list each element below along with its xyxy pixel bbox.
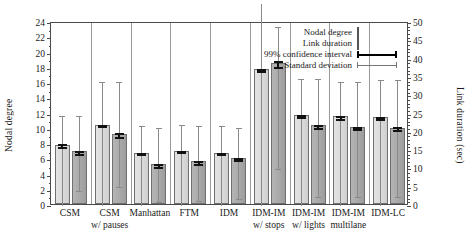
y-minor-tick-right bbox=[407, 177, 410, 178]
y-tick-label-left: 12 bbox=[36, 110, 46, 120]
y-minor-tick-right bbox=[407, 56, 410, 57]
sd-whisker-nodal-degree bbox=[380, 80, 381, 206]
y-minor-tick-right bbox=[407, 122, 410, 123]
y-tick-right bbox=[407, 23, 411, 24]
y-minor-tick-right bbox=[407, 89, 410, 90]
x-axis-label: IDM-IMw/ lights bbox=[289, 208, 329, 231]
y-minor-tick-right bbox=[407, 144, 410, 145]
y-minor-tick-right bbox=[407, 129, 410, 130]
legend-swatch-link-duration bbox=[357, 39, 397, 48]
y-minor-tick-right bbox=[407, 184, 410, 185]
y-minor-tick-right bbox=[407, 162, 410, 163]
legend-label-link-duration: Link duration bbox=[303, 38, 352, 48]
y-minor-tick-right bbox=[407, 107, 410, 108]
y-tick-left bbox=[47, 176, 51, 177]
y-tick-left bbox=[47, 69, 51, 70]
legend-label-confidence-interval: 99% confidence interval bbox=[264, 49, 352, 59]
ci-marker-nodal-degree bbox=[380, 117, 382, 122]
ci-marker-link-duration bbox=[198, 161, 200, 165]
x-axis-label-line1: IDM-LC bbox=[371, 208, 405, 218]
y-tick-right bbox=[407, 151, 411, 152]
x-axis-label: CSMw/ pauses bbox=[90, 208, 130, 231]
y-tick-label-left: 18 bbox=[36, 64, 46, 74]
x-axis-label-line1: CSM bbox=[100, 208, 120, 218]
legend-label-standard-deviation: Standard deviation bbox=[284, 60, 352, 70]
x-axis-label: IDM bbox=[209, 208, 249, 220]
y-minor-tick-right bbox=[407, 136, 410, 137]
y-tick-label-right: 45 bbox=[413, 36, 423, 46]
y-minor-tick-right bbox=[407, 85, 410, 86]
y-minor-tick-right bbox=[407, 199, 410, 200]
group-separator bbox=[91, 23, 92, 204]
legend-swatch-nodal-degree bbox=[357, 28, 397, 37]
y-tick-label-left: 20 bbox=[36, 49, 46, 59]
y-tick-left bbox=[47, 115, 51, 116]
sd-whisker-nodal-degree bbox=[141, 126, 142, 206]
group-separator bbox=[131, 23, 132, 204]
y-tick-left bbox=[47, 130, 51, 131]
y-minor-tick-right bbox=[407, 74, 410, 75]
ci-marker-nodal-degree bbox=[260, 69, 262, 74]
y-minor-tick-left bbox=[49, 198, 52, 199]
sd-whisker-nodal-degree bbox=[340, 82, 341, 206]
y-minor-tick-right bbox=[407, 100, 410, 101]
y-tick-right bbox=[407, 96, 411, 97]
ci-marker-nodal-degree bbox=[181, 151, 183, 154]
x-axis-label-line2: w/ pauses bbox=[90, 220, 130, 232]
x-axis-label-line2: multilane bbox=[328, 220, 368, 232]
y-tick-right bbox=[407, 115, 411, 116]
x-axis-label: IDM-LC bbox=[368, 208, 408, 220]
y-minor-tick-left bbox=[49, 46, 52, 47]
y-tick-label-left: 2 bbox=[40, 186, 45, 196]
y-tick-left bbox=[47, 191, 51, 192]
y-tick-right bbox=[407, 188, 411, 189]
y-tick-label-left: 4 bbox=[40, 171, 45, 181]
sd-whisker-link-duration bbox=[397, 80, 398, 198]
x-axis-label-line1: IDM-IM bbox=[292, 208, 325, 218]
y-minor-tick-right bbox=[407, 202, 410, 203]
y-tick-right bbox=[407, 133, 411, 134]
group-separator bbox=[170, 23, 171, 204]
y-tick-right bbox=[407, 206, 411, 207]
y-axis-label-left: Nodal degree bbox=[2, 60, 16, 190]
y-tick-left bbox=[47, 206, 51, 207]
legend-swatch-standard-deviation bbox=[357, 61, 397, 70]
ci-marker-nodal-degree bbox=[300, 115, 302, 120]
x-axis-label-line2: w/ lights bbox=[289, 220, 329, 232]
ci-marker-link-duration bbox=[158, 164, 160, 168]
y-tick-right bbox=[407, 41, 411, 42]
y-tick-right bbox=[407, 78, 411, 79]
group-separator bbox=[210, 23, 211, 204]
y-tick-left bbox=[47, 84, 51, 85]
y-tick-label-left: 6 bbox=[40, 155, 45, 165]
y-minor-tick-right bbox=[407, 155, 410, 156]
y-tick-left bbox=[47, 23, 51, 24]
y-minor-tick-left bbox=[49, 31, 52, 32]
y-minor-tick-right bbox=[407, 195, 410, 196]
sd-whisker-link-duration bbox=[318, 79, 319, 197]
y-minor-tick-right bbox=[407, 93, 410, 94]
x-axis-label-line2: w/ stops bbox=[249, 220, 289, 232]
y-tick-label-right: 15 bbox=[413, 146, 423, 156]
y-minor-tick-right bbox=[407, 49, 410, 50]
y-tick-label-right: 25 bbox=[413, 110, 423, 120]
sd-whisker-link-duration bbox=[357, 82, 358, 198]
y-minor-tick-right bbox=[407, 147, 410, 148]
y-tick-label-right: 40 bbox=[413, 55, 423, 65]
sd-whisker-link-duration bbox=[238, 128, 239, 200]
x-axis-label-line1: FTM bbox=[179, 208, 199, 218]
sd-whisker-nodal-degree bbox=[102, 82, 103, 206]
x-axis-label: FTM bbox=[169, 208, 209, 220]
x-axis-label-line1: IDM-IM bbox=[252, 208, 285, 218]
legend-item-nodal-degree: Nodal degree bbox=[304, 27, 397, 37]
y-tick-right bbox=[407, 60, 411, 61]
sd-whisker-nodal-degree bbox=[221, 126, 222, 206]
legend-item-link-duration: Link duration bbox=[303, 38, 397, 48]
y-tick-label-left: 24 bbox=[36, 18, 46, 28]
x-axis-label: Manhattan bbox=[130, 208, 170, 220]
y-minor-tick-right bbox=[407, 82, 410, 83]
legend-item-confidence-interval: 99% confidence interval bbox=[264, 49, 397, 59]
y-minor-tick-left bbox=[49, 76, 52, 77]
y-axis-label-right: Link duration (sec) bbox=[453, 55, 467, 195]
y-minor-tick-left bbox=[49, 92, 52, 93]
